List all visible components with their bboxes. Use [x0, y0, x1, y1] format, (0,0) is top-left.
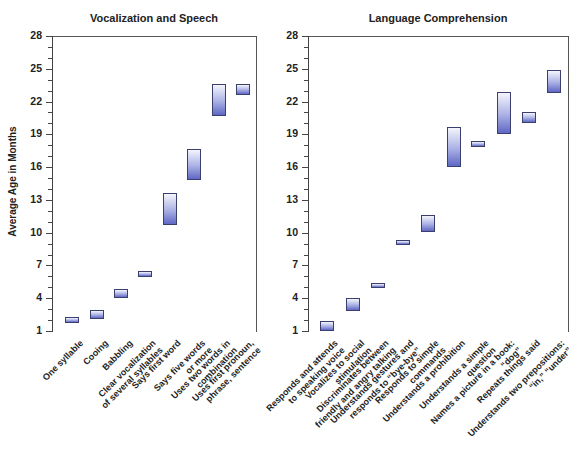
range-bar [163, 193, 177, 225]
x-tick-label: One syllable [41, 338, 86, 383]
minor-tick [48, 222, 52, 223]
y-axis-label: Average Age in Months [7, 122, 18, 242]
y-tick-label: 28 [276, 29, 298, 41]
range-bar [547, 70, 561, 93]
minor-tick [48, 47, 52, 48]
y-tick-label: 16 [20, 160, 42, 172]
minor-tick [304, 276, 308, 277]
y-tick-label: 7 [276, 258, 298, 270]
y-tick-label: 22 [20, 95, 42, 107]
y-tick-label: 1 [20, 324, 42, 336]
plot-frame [308, 36, 569, 332]
minor-tick [304, 80, 308, 81]
minor-tick [48, 211, 52, 212]
y-tick-label: 13 [276, 193, 298, 205]
minor-tick [48, 309, 52, 310]
minor-tick [48, 255, 52, 256]
minor-tick [304, 320, 308, 321]
major-tick [46, 167, 52, 168]
major-tick [302, 200, 308, 201]
range-bar [396, 240, 410, 245]
major-tick [46, 298, 52, 299]
minor-tick [48, 156, 52, 157]
y-axis [308, 36, 309, 332]
minor-tick [48, 244, 52, 245]
y-tick-label: 19 [20, 127, 42, 139]
major-tick [46, 69, 52, 70]
y-tick-label: 10 [276, 226, 298, 238]
range-bar [90, 310, 104, 319]
minor-tick [48, 145, 52, 146]
major-tick [46, 102, 52, 103]
y-tick-label: 4 [20, 291, 42, 303]
major-tick [302, 69, 308, 70]
minor-tick [48, 112, 52, 113]
minor-tick [304, 211, 308, 212]
minor-tick [48, 320, 52, 321]
y-tick-label: 19 [276, 127, 298, 139]
major-tick [302, 134, 308, 135]
y-tick-label: 7 [20, 258, 42, 270]
major-tick [46, 134, 52, 135]
major-tick [302, 298, 308, 299]
major-tick [302, 167, 308, 168]
major-tick [302, 36, 308, 37]
range-bar [447, 127, 461, 167]
minor-tick [48, 58, 52, 59]
y-tick-label: 22 [276, 95, 298, 107]
range-bar [236, 84, 250, 95]
minor-tick [304, 244, 308, 245]
minor-tick [304, 58, 308, 59]
major-tick [46, 265, 52, 266]
major-tick [46, 331, 52, 332]
minor-tick [48, 91, 52, 92]
minor-tick [304, 145, 308, 146]
major-tick [302, 331, 308, 332]
range-bar [138, 271, 152, 278]
minor-tick [48, 189, 52, 190]
minor-tick [304, 47, 308, 48]
minor-tick [48, 276, 52, 277]
minor-tick [48, 123, 52, 124]
y-tick-label: 25 [20, 62, 42, 74]
y-tick-label: 1 [276, 324, 298, 336]
plot-frame [52, 36, 257, 332]
major-tick [46, 233, 52, 234]
major-tick [302, 265, 308, 266]
range-bar [421, 215, 435, 231]
y-tick-label: 10 [20, 226, 42, 238]
minor-tick [304, 255, 308, 256]
minor-tick [48, 80, 52, 81]
minor-tick [304, 309, 308, 310]
major-tick [46, 200, 52, 201]
minor-tick [304, 222, 308, 223]
range-bar [320, 321, 334, 331]
major-tick [302, 102, 308, 103]
minor-tick [304, 91, 308, 92]
minor-tick [304, 189, 308, 190]
chart-title: Language Comprehension [308, 12, 568, 24]
minor-tick [304, 112, 308, 113]
major-tick [302, 233, 308, 234]
major-tick [46, 36, 52, 37]
range-bar [497, 92, 511, 135]
minor-tick [48, 287, 52, 288]
range-bar [471, 141, 485, 148]
minor-tick [48, 178, 52, 179]
minor-tick [304, 287, 308, 288]
range-bar [114, 289, 128, 298]
y-tick-label: 28 [20, 29, 42, 41]
y-tick-label: 13 [20, 193, 42, 205]
range-bar [346, 298, 360, 311]
minor-tick [304, 123, 308, 124]
y-tick-label: 25 [276, 62, 298, 74]
range-bar [187, 149, 201, 181]
range-bar [522, 112, 536, 123]
range-bar [212, 84, 226, 116]
y-axis [52, 36, 53, 332]
y-tick-label: 16 [276, 160, 298, 172]
range-bar [371, 283, 385, 288]
minor-tick [304, 178, 308, 179]
chart-title: Vocalization and Speech [52, 12, 256, 24]
y-tick-label: 4 [276, 291, 298, 303]
